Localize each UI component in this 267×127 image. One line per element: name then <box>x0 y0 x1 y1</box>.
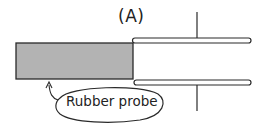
callout-label: Rubber probe <box>66 93 158 109</box>
callout-arrow-tail <box>49 85 58 100</box>
tube-upper-wall <box>133 38 252 43</box>
rubber-probe <box>16 43 133 79</box>
diagram-canvas: (A) Rubber probe <box>0 0 267 127</box>
panel-label: (A) <box>118 6 144 26</box>
tube-lower-wall <box>134 80 251 85</box>
